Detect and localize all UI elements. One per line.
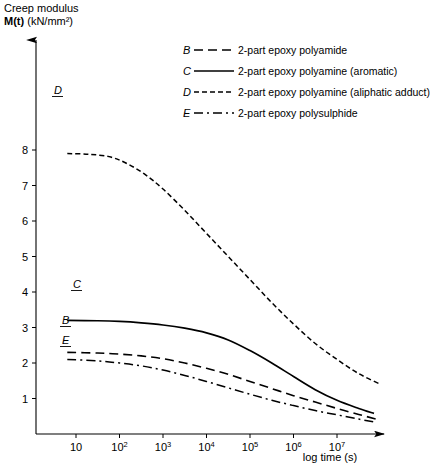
data-curves	[67, 154, 380, 423]
y-tick-label: 4	[22, 286, 28, 298]
y-axis-label: Creep modulus M(t) (kN/mm²)	[4, 2, 79, 28]
curve-labels: DCBE	[52, 84, 82, 347]
curve-label-E: E	[62, 334, 70, 346]
y-tick-label: 1	[22, 393, 28, 405]
x-axis-title: log time (s)	[303, 451, 357, 463]
y-tick-label: 5	[22, 251, 28, 263]
y-axis-label-line2: M(t) (kN/mm²)	[4, 15, 79, 28]
x-tick-exponent: 6	[298, 440, 302, 449]
legend-key-C: C	[183, 65, 191, 77]
legend-label-D: 2-part epoxy polyamine (aliphatic adduct…	[238, 86, 430, 98]
x-tick-exponent: 7	[341, 440, 345, 449]
y-tick-label: 2	[22, 357, 28, 369]
curve-label-C: C	[73, 278, 81, 290]
curve-label-B: B	[62, 314, 69, 326]
curve-C	[67, 320, 374, 413]
curve-label-D: D	[54, 84, 62, 96]
legend-label-C: 2-part epoxy polyamine (aromatic)	[238, 65, 397, 77]
x-tick-exponent: 4	[211, 440, 215, 449]
x-tick-label: 103	[155, 440, 171, 454]
x-tick-label: 10	[70, 441, 82, 453]
y-axis-ticks: 12345678	[22, 144, 36, 405]
legend-label-B: 2-part epoxy polyamide	[238, 44, 347, 56]
plot-area: 12345678 10102103104105106107 DCBE B2-pa…	[0, 0, 431, 475]
legend-label-E: 2-part epoxy polysulphide	[238, 107, 358, 119]
y-tick-label: 3	[22, 322, 28, 334]
x-tick-exponent: 3	[167, 440, 171, 449]
x-tick-exponent: 2	[124, 440, 128, 449]
x-tick-exponent: 5	[254, 440, 258, 449]
y-tick-label: 6	[22, 215, 28, 227]
x-tick-label: 106	[285, 440, 301, 454]
x-tick-label: 104	[198, 440, 214, 454]
y-tick-label: 8	[22, 144, 28, 156]
x-tick-label: 105	[242, 440, 258, 454]
y-axis-label-line1: Creep modulus	[4, 2, 79, 15]
legend-key-E: E	[183, 107, 191, 119]
creep-modulus-chart: Creep modulus M(t) (kN/mm²) 12345678 101…	[0, 0, 431, 475]
curve-D	[67, 154, 380, 385]
x-tick-label: 102	[111, 440, 127, 454]
legend-key-B: B	[183, 44, 190, 56]
y-axis-label-units: (kN/mm²)	[27, 15, 73, 27]
y-axis-label-symbol: M(t)	[4, 15, 24, 27]
y-tick-label: 7	[22, 180, 28, 192]
curve-E	[67, 359, 376, 422]
legend: B2-part epoxy polyamideC2-part epoxy pol…	[183, 44, 430, 119]
legend-key-D: D	[183, 86, 191, 98]
